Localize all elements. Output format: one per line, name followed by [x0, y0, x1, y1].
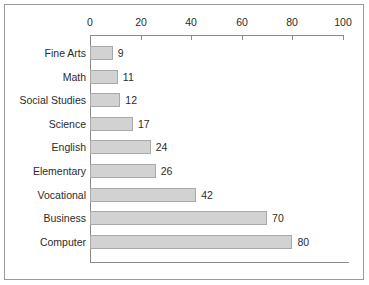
- bar-value-label: 80: [297, 236, 309, 248]
- category-label: Fine Arts: [2, 47, 86, 59]
- x-axis-line: [90, 35, 344, 36]
- category-label: Social Studies: [2, 94, 86, 106]
- x-axis-tick: [141, 35, 142, 40]
- bar: [90, 188, 196, 202]
- bar: [90, 93, 120, 107]
- category-label: English: [2, 141, 86, 153]
- x-axis-tick-label: 0: [87, 16, 93, 28]
- x-axis-tick-label: 100: [334, 16, 352, 28]
- x-axis-tick: [191, 35, 192, 40]
- x-axis-tick: [242, 35, 243, 40]
- x-axis-tick: [292, 35, 293, 40]
- x-axis-tick-label: 20: [135, 16, 147, 28]
- bar: [90, 235, 292, 249]
- bar-value-label: 11: [123, 71, 134, 83]
- x-axis-tick-label: 60: [236, 16, 248, 28]
- category-label: Business: [2, 212, 86, 224]
- bar: [90, 164, 156, 178]
- bar-value-label: 9: [118, 47, 124, 59]
- x-axis-tick: [90, 35, 91, 40]
- bar-value-label: 12: [125, 94, 137, 106]
- bar-value-label: 42: [201, 189, 213, 201]
- bar-value-label: 26: [161, 165, 173, 177]
- bar-value-label: 17: [138, 118, 150, 130]
- bar: [90, 211, 267, 225]
- category-label: Math: [2, 71, 86, 83]
- category-labels: Fine ArtsMathSocial StudiesScienceEnglis…: [0, 0, 86, 285]
- plot-baseline: [90, 262, 349, 263]
- bar: [90, 70, 118, 84]
- x-axis-tick: [343, 35, 344, 40]
- bar: [90, 46, 113, 60]
- bar: [90, 117, 133, 131]
- category-label: Computer: [2, 236, 86, 248]
- category-label: Elementary: [2, 165, 86, 177]
- x-axis-tick-label: 80: [286, 16, 298, 28]
- category-label: Science: [2, 118, 86, 130]
- bar-value-label: 70: [272, 212, 284, 224]
- bar-chart: 020406080100 Fine ArtsMathSocial Studies…: [0, 0, 369, 285]
- x-axis-tick-label: 40: [185, 16, 197, 28]
- bar: [90, 140, 151, 154]
- bar-value-label: 24: [156, 141, 168, 153]
- category-label: Vocational: [2, 189, 86, 201]
